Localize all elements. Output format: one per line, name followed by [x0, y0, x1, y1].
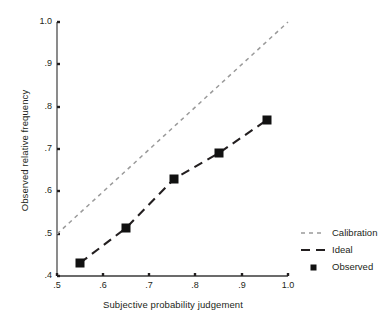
y-tick-label: .9 — [26, 58, 52, 68]
y-tick-label: .4 — [26, 270, 52, 280]
y-tick-label: .6 — [26, 185, 52, 195]
x-tick-label: .9 — [229, 280, 255, 290]
y-axis-title: Observed relative frequency — [19, 66, 30, 236]
legend-item-ideal: Ideal — [300, 241, 388, 258]
data-point-marker — [170, 175, 179, 184]
y-tick-label: .5 — [26, 228, 52, 238]
legend-item-calibration: Calibration — [300, 224, 388, 241]
data-point-marker — [215, 149, 224, 158]
legend-label-calibration: Calibration — [332, 227, 377, 238]
series-calibration-line — [57, 22, 288, 234]
series-ideal-line — [80, 120, 267, 263]
square-marker-key — [300, 260, 326, 274]
x-axis-title: Subjective probability judgement — [57, 299, 289, 310]
x-tick-label: .5 — [44, 280, 70, 290]
data-point-marker — [263, 116, 272, 125]
y-tick-label: .7 — [26, 143, 52, 153]
x-tick-label: .6 — [90, 280, 116, 290]
data-point-marker — [122, 224, 131, 233]
dotted-line-key — [300, 226, 326, 240]
dashed-line-key — [300, 243, 326, 257]
chart-legend: Calibration Ideal Observed — [300, 224, 388, 275]
chart-figure: 1.0 .9 .8 .7 .6 .5 .4 .5 .6 .7 .8 .9 1.0… — [0, 0, 391, 323]
data-point-marker — [76, 259, 85, 268]
x-tick-label: .8 — [182, 280, 208, 290]
x-tick-label: .7 — [136, 280, 162, 290]
legend-label-ideal: Ideal — [332, 244, 353, 255]
legend-item-observed: Observed — [300, 258, 388, 275]
y-tick-label: 1.0 — [26, 16, 52, 26]
y-tick-label: .8 — [26, 101, 52, 111]
x-tick-label: 1.0 — [275, 280, 301, 290]
legend-label-observed: Observed — [332, 261, 373, 272]
